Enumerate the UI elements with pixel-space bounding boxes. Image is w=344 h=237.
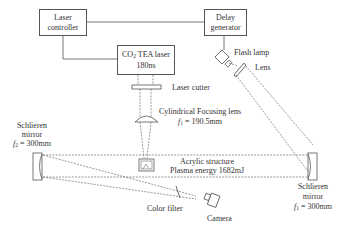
- cylindrical-lens-icon: [135, 116, 158, 122]
- laser-controller-line1: Laser: [54, 13, 72, 23]
- left-schlieren-mirror-icon: [33, 153, 42, 180]
- laser-cutter-icon: [132, 85, 161, 89]
- delay-generator-box: Delay generator: [204, 9, 247, 36]
- connector-controller-laser: [63, 36, 117, 59]
- laser-controller-box: Laser controller: [39, 9, 87, 36]
- camera-label: Camera: [207, 214, 232, 224]
- delay-generator-line2: generator: [210, 23, 240, 33]
- focusing-lens-focal-length: f1 = 190.5mm: [178, 117, 222, 129]
- focusing-lens-label: Cylindrical Focusing lens: [159, 107, 241, 117]
- right-mirror-label-line1: Schlieren: [287, 182, 339, 192]
- delay-generator-line1: Delay: [216, 13, 235, 23]
- right-mirror-focal-length: f1 = 300mm: [287, 202, 339, 214]
- co2-tea-laser-box: CO2 TEA laser 180ns: [117, 45, 175, 75]
- laser-controller-line2: controller: [47, 23, 78, 33]
- right-schlieren-mirror-icon: [308, 153, 317, 180]
- color-filter-label: Color filter: [147, 204, 183, 214]
- lens-label: Lens: [255, 63, 271, 73]
- co2-laser-line2: 180ns: [136, 61, 155, 71]
- plasma-energy-label: Plasma energy 1682mJ: [158, 166, 256, 176]
- flash-lamp-label: Flash lamp: [234, 48, 269, 58]
- acrylic-structure-icon: [139, 159, 154, 171]
- camera-icon: [203, 191, 220, 207]
- co2-laser-line1: CO2 TEA laser: [122, 50, 170, 62]
- laser-cutter-label: Laser cutter: [172, 83, 210, 93]
- flash-lamp-icon: [215, 50, 234, 69]
- right-mirror-label-line2: mirror: [287, 192, 339, 202]
- left-mirror-focal-length: f2 = 300mm: [7, 139, 57, 151]
